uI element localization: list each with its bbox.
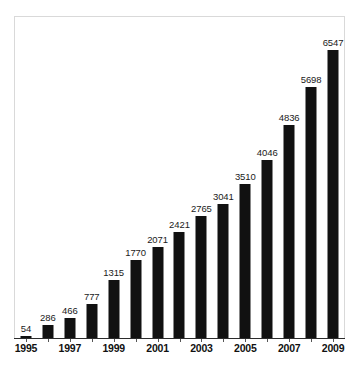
bar	[218, 204, 229, 338]
bar-value-label: 4836	[279, 113, 300, 123]
bar-group: 466	[59, 17, 81, 338]
bar-value-label: 6547	[323, 38, 344, 48]
bar-group: 4836	[278, 17, 300, 338]
bar	[196, 216, 207, 338]
bar-value-label: 54	[21, 324, 31, 334]
bar	[86, 304, 97, 338]
x-axis-tick-label: 1997	[59, 342, 82, 355]
bar-group: 6547	[322, 17, 344, 338]
bar-group: 5698	[300, 17, 322, 338]
bar-value-label: 5698	[301, 75, 322, 85]
x-axis-tick-label: 2007	[278, 342, 301, 355]
bar-value-label: 3041	[213, 192, 234, 202]
bar	[152, 247, 163, 338]
bar-value-label: 2071	[147, 235, 168, 245]
bar-group: 54	[15, 17, 37, 338]
bar	[284, 125, 295, 338]
bar-value-label: 466	[62, 306, 78, 316]
bar	[240, 184, 251, 338]
bars-container: 5428646677713151770207124212765304135104…	[15, 17, 344, 338]
bar	[306, 87, 317, 338]
bar-group: 777	[81, 17, 103, 338]
bar-group: 1770	[125, 17, 147, 338]
bar-value-label: 777	[84, 292, 100, 302]
bar	[174, 232, 185, 338]
bar-group: 3041	[212, 17, 234, 338]
x-axis-tick-label: 2001	[146, 342, 169, 355]
x-axis-tick-label: 2005	[234, 342, 257, 355]
x-axis-tick-label: 1999	[102, 342, 125, 355]
bar	[108, 280, 119, 338]
bar-group: 4046	[256, 17, 278, 338]
bar	[130, 260, 141, 338]
bar-chart-figure: 5428646677713151770207124212765304135104…	[0, 0, 358, 372]
bar-value-label: 2421	[169, 220, 190, 230]
bar-group: 2071	[147, 17, 169, 338]
bar-value-label: 2765	[191, 204, 212, 214]
bar	[64, 318, 75, 338]
bar-group: 2765	[190, 17, 212, 338]
bar-group: 1315	[103, 17, 125, 338]
bar-group: 3510	[234, 17, 256, 338]
x-axis-tick-label: 2009	[322, 342, 345, 355]
bar-group: 2421	[169, 17, 191, 338]
bar	[328, 50, 339, 338]
bar-value-label: 4046	[257, 148, 278, 158]
bar	[42, 325, 53, 338]
bar-value-label: 1315	[103, 268, 124, 278]
x-axis-labels: 19951997199920012003200520072009	[15, 342, 344, 356]
bar	[262, 160, 273, 338]
x-axis-tick-label: 1995	[15, 342, 38, 355]
cropped-caption-strip	[0, 362, 358, 372]
bar-value-label: 1770	[125, 248, 146, 258]
bar-group: 286	[37, 17, 59, 338]
bar-value-label: 3510	[235, 172, 256, 182]
x-axis-tick-label: 2003	[190, 342, 213, 355]
bar-value-label: 286	[40, 313, 56, 323]
